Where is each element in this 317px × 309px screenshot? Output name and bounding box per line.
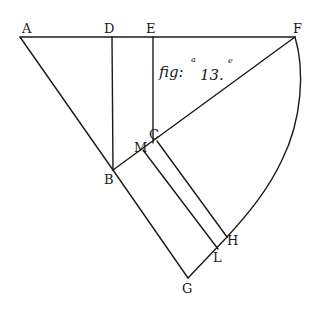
label-C: C (149, 127, 159, 142)
geometric-figure: A D E F B C M H L G fig: a 13. e (0, 0, 317, 309)
label-G: G (182, 281, 192, 296)
line-BG (113, 170, 188, 278)
figure-caption: fig: (158, 63, 184, 81)
label-L: L (213, 250, 222, 265)
line-ML (143, 150, 218, 249)
label-E: E (146, 21, 156, 36)
figure-number-superscript: e (228, 56, 233, 65)
label-B: B (104, 172, 114, 187)
label-H: H (227, 233, 238, 248)
label-A: A (21, 21, 32, 36)
line-CH (157, 141, 227, 237)
label-D: D (104, 21, 114, 36)
figure-number: 13. (200, 66, 224, 84)
label-F: F (293, 21, 302, 36)
line-AB (20, 37, 113, 170)
figure-caption-superscript: a (191, 55, 196, 64)
arc-FH (227, 37, 301, 237)
line-DB (112, 37, 113, 170)
label-M: M (134, 140, 147, 155)
